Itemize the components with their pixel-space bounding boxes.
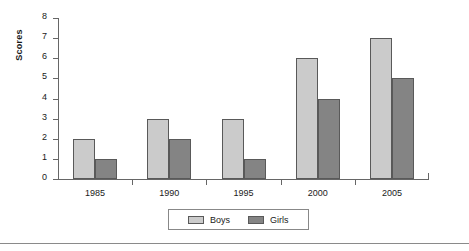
bar-girls-2000 bbox=[318, 99, 340, 180]
y-axis-tick: 8 bbox=[53, 18, 58, 19]
y-axis-tick-label: 6 bbox=[42, 51, 47, 61]
bar-boys-1995 bbox=[222, 119, 244, 179]
x-axis-label-1995: 1995 bbox=[206, 188, 280, 198]
x-axis-tick bbox=[206, 179, 207, 185]
y-axis-tick: 0 bbox=[53, 179, 58, 180]
bar-boys-1990 bbox=[147, 119, 169, 179]
x-axis-tick bbox=[132, 179, 133, 185]
y-axis-tick-label: 8 bbox=[42, 11, 47, 21]
y-axis-tick-label: 0 bbox=[42, 172, 47, 182]
y-axis-tick: 6 bbox=[53, 58, 58, 59]
bar-girls-1995 bbox=[244, 159, 266, 179]
bar-boys-2000 bbox=[296, 58, 318, 179]
x-axis-label-1985: 1985 bbox=[58, 188, 132, 198]
y-axis-tick-label: 5 bbox=[42, 71, 47, 81]
y-axis-title: Scores bbox=[14, 15, 24, 75]
x-axis-line bbox=[58, 179, 429, 180]
bottom-divider-rule bbox=[0, 243, 469, 244]
x-axis-tick bbox=[281, 179, 282, 185]
legend-entry-boys: Boys bbox=[188, 215, 230, 225]
y-axis-tick-label: 7 bbox=[42, 31, 47, 41]
y-axis-line bbox=[58, 18, 59, 180]
legend-swatch-boys bbox=[188, 216, 204, 224]
legend-label-girls: Girls bbox=[270, 215, 289, 225]
legend-entry-girls: Girls bbox=[248, 215, 289, 225]
y-axis-tick-label: 3 bbox=[42, 112, 47, 122]
y-axis-tick-label: 2 bbox=[42, 132, 47, 142]
legend-label-boys: Boys bbox=[210, 215, 230, 225]
y-axis-tick: 3 bbox=[53, 119, 58, 120]
bar-girls-1985 bbox=[95, 159, 117, 179]
y-axis-tick: 4 bbox=[53, 99, 58, 100]
bar-girls-2005 bbox=[392, 78, 414, 179]
bar-boys-1985 bbox=[73, 139, 95, 179]
bar-boys-2005 bbox=[370, 38, 392, 179]
y-axis-tick: 7 bbox=[53, 38, 58, 39]
x-axis-tick bbox=[355, 179, 356, 185]
chart-legend: Boys Girls bbox=[168, 209, 309, 230]
y-axis-tick-label: 4 bbox=[42, 92, 47, 102]
y-axis-tick-label: 1 bbox=[42, 152, 47, 162]
x-axis-label-2000: 2000 bbox=[281, 188, 355, 198]
x-axis-label-1990: 1990 bbox=[132, 188, 206, 198]
y-axis-tick: 1 bbox=[53, 159, 58, 160]
bar-girls-1990 bbox=[169, 139, 191, 179]
plot-area: 012345678 19851990199520002005 bbox=[58, 18, 429, 180]
x-axis-label-2005: 2005 bbox=[355, 188, 429, 198]
x-axis-end-cap bbox=[428, 173, 429, 180]
bar-chart-figure: Scores 012345678 19851990199520002005 Bo… bbox=[0, 0, 469, 251]
y-axis-tick: 5 bbox=[53, 78, 58, 79]
y-axis-tick: 2 bbox=[53, 139, 58, 140]
legend-swatch-girls bbox=[248, 216, 264, 224]
